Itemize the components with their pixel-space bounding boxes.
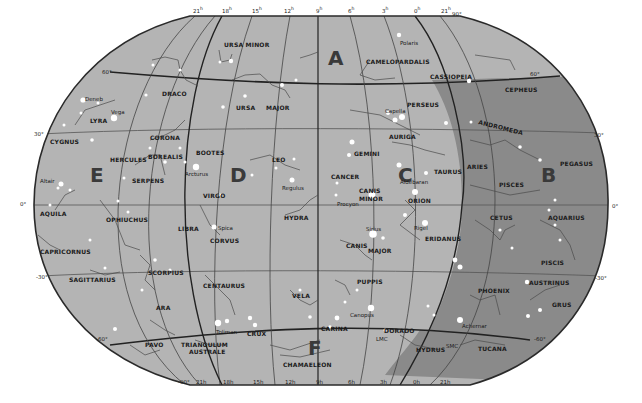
south-pole-label: -90° <box>178 379 190 385</box>
label-lmc: LMC <box>376 336 388 342</box>
label-perseus: PERSEUS <box>407 101 439 108</box>
dec-left-m60: -60° <box>96 336 108 342</box>
ra-bottom-21b: 21h <box>440 379 451 385</box>
label-eridanus: ERIDANUS <box>425 235 461 242</box>
label-crux: CRUX <box>247 330 266 337</box>
dec-right-60: 60° <box>530 71 540 77</box>
label-capella: Capella <box>385 108 406 115</box>
label-aquarius: AQUARIUS <box>548 214 585 221</box>
ra-bottom-9: 9h <box>316 379 324 385</box>
label-virgo: VIRGO <box>203 192 226 199</box>
label-ara: ARA <box>156 304 171 311</box>
label-triangulum: TRIANGULUM <box>181 341 228 348</box>
label-pisces: PISCES <box>499 181 524 188</box>
label-phoenix: PHOENIX <box>478 287 510 294</box>
label-canis-minor-2: MINOR <box>359 195 383 202</box>
label-polaris: Polaris <box>400 40 418 46</box>
label-smc: SMC <box>446 343 458 349</box>
label-canopus: Canopus <box>350 312 374 319</box>
label-libra: LIBRA <box>178 225 199 232</box>
ra-bottom-6: 6h <box>348 379 356 385</box>
zone-label-a: A <box>328 46 344 70</box>
label-grus: GRUS <box>552 301 572 308</box>
ra-top-18: 18h <box>222 6 232 14</box>
label-vega: Vega <box>111 109 125 116</box>
label-pavo: PAVO <box>145 341 164 348</box>
label-capricornus: CAPRICORNUS <box>40 248 91 255</box>
ra-bottom-15: 15h <box>253 379 264 385</box>
label-centaurus: CENTAURUS <box>203 282 245 289</box>
label-arcturus: Arcturus <box>185 171 208 177</box>
zone-label-b: B <box>541 163 556 187</box>
label-chamaeleon: CHAMAELEON <box>283 361 332 368</box>
label-australe: AUSTRALE <box>189 348 226 355</box>
label-altair: Altair <box>40 178 55 184</box>
label-achernar: Achernar <box>462 323 488 329</box>
label-austrinus: AUSTRINUS <box>529 279 570 286</box>
ra-top-9: 9h <box>316 6 323 14</box>
label-cancer: CANCER <box>331 173 360 180</box>
label-pegasus: PEGASUS <box>560 160 593 167</box>
label-canis-major-1: CANIS <box>346 242 368 249</box>
dec-left-60: 60° <box>102 69 112 75</box>
label-vela: VELA <box>292 292 310 299</box>
ra-bottom-0: 0h <box>413 379 421 385</box>
label-cassiopeia: CASSIOPEIA <box>430 73 472 80</box>
label-sagittarius: SAGITTARIUS <box>69 276 116 283</box>
dec-left-m30: -30° <box>36 274 48 280</box>
dec-left-30: 30° <box>34 131 44 137</box>
label-bootes: BOOTES <box>196 149 225 156</box>
label-piscis: PISCIS <box>541 259 564 266</box>
label-deneb: Deneb <box>85 96 103 102</box>
ra-bottom-18: 18h <box>223 379 234 385</box>
label-aries: ARIES <box>467 163 488 170</box>
label-ursa: URSA <box>236 104 255 111</box>
ra-top-21b: 21h <box>441 6 451 14</box>
label-borealis: BOREALIS <box>148 153 183 160</box>
label-taurus: TAURUS <box>434 168 462 175</box>
label-serpens: SERPENS <box>132 177 164 184</box>
label-major: MAJOR <box>266 104 290 112</box>
label-aquila: AQUILA <box>40 210 67 217</box>
dec-right-30: 30° <box>594 132 604 138</box>
label-canis-minor-1: CANIS <box>359 187 381 194</box>
label-regulus: Regulus <box>282 185 304 192</box>
ra-top-3: 3h <box>382 6 389 14</box>
label-procyon: Procyon <box>337 201 359 208</box>
label-lyra: LYRA <box>90 117 107 124</box>
label-spica: Spica <box>218 225 233 232</box>
label-sirius: Sirius <box>366 226 381 232</box>
ra-bottom-3: 3h <box>380 379 388 385</box>
label-hydrus: HYDRUS <box>416 346 445 353</box>
zone-label-e: E <box>90 163 104 187</box>
label-tucana: TUCANA <box>478 345 507 352</box>
label-cygnus: CYGNUS <box>50 138 79 145</box>
label-corona: CORONA <box>150 134 180 141</box>
dec-right-m30: -30° <box>595 275 607 281</box>
label-auriga: AURIGA <box>389 133 416 140</box>
label-scorpius: SCORPIUS <box>148 269 184 276</box>
label-carina: CARINA <box>321 325 348 332</box>
label-camelopardalis: CAMELOPARDALIS <box>366 58 430 65</box>
label-leo: LEO <box>272 156 286 163</box>
label-puppis: PUPPIS <box>357 278 383 285</box>
ra-top-21: 21h <box>193 6 203 14</box>
north-pole-label: 90° <box>452 11 462 17</box>
dec-left-0: 0° <box>20 201 26 207</box>
label-orion: ORION <box>408 197 431 204</box>
label-corvus: CORVUS <box>210 237 239 244</box>
label-rigel: Rigel <box>414 225 428 232</box>
label-aldebaran: Aldebaran <box>400 179 429 185</box>
ra-top-6: 6h <box>348 6 355 14</box>
ra-top-0: 0h <box>414 6 421 14</box>
zone-label-f: F <box>308 336 322 360</box>
label-canis-major-2: MAJOR <box>368 247 392 255</box>
label-ophiuchus: OPHIUCHUS <box>106 216 148 223</box>
ra-bottom-12: 12h <box>285 379 296 385</box>
label-hercules: HERCULES <box>110 156 147 163</box>
label-cepheus: CEPHEUS <box>505 86 538 93</box>
ra-top-12: 12h <box>284 6 294 14</box>
label-hydra: HYDRA <box>284 214 309 221</box>
dec-right-0: 0° <box>612 203 618 209</box>
zone-label-d: D <box>230 163 247 187</box>
